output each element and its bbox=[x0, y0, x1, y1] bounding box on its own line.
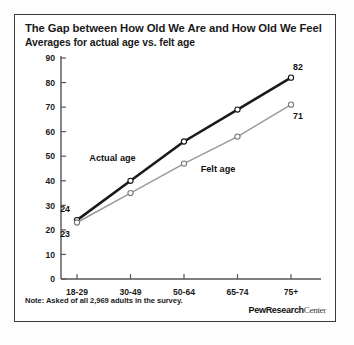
line-chart-svg: 010203040506070809018-2930-4950-6465-747… bbox=[15, 15, 337, 323]
data-point-marker bbox=[128, 178, 133, 183]
brand-light-text: Center bbox=[304, 305, 326, 315]
data-point-marker bbox=[181, 161, 186, 166]
chart-note: Note: Asked of all 2,969 adults in the s… bbox=[25, 296, 183, 305]
plot-area: 010203040506070809018-2930-4950-6465-747… bbox=[15, 15, 337, 323]
y-axis-tick-label: 80 bbox=[45, 78, 55, 88]
y-axis-tick-label: 20 bbox=[45, 225, 55, 235]
data-point-marker bbox=[235, 134, 240, 139]
y-axis-tick-label: 90 bbox=[45, 53, 55, 63]
data-point-marker bbox=[181, 139, 186, 144]
series-label-felt-age: Felt age bbox=[201, 164, 236, 174]
pew-research-center-logo: PewResearchCenter bbox=[249, 305, 326, 315]
chart-card: The Gap between How Old We Are and How O… bbox=[14, 14, 336, 322]
y-axis-tick-label: 60 bbox=[45, 127, 55, 137]
series-line bbox=[77, 78, 291, 221]
series-label-actual-age: Actual age bbox=[89, 153, 135, 163]
y-axis-tick-label: 10 bbox=[45, 250, 55, 260]
chart-page: The Gap between How Old We Are and How O… bbox=[0, 0, 354, 345]
y-axis-tick-label: 50 bbox=[45, 151, 55, 161]
data-point-marker bbox=[128, 190, 133, 195]
x-axis-tick-label: 65-74 bbox=[227, 287, 249, 297]
y-axis-tick-label: 40 bbox=[45, 176, 55, 186]
data-point-label: 82 bbox=[293, 62, 303, 72]
y-axis-tick-label: 30 bbox=[45, 201, 55, 211]
data-point-marker bbox=[235, 107, 240, 112]
data-point-label: 23 bbox=[60, 229, 70, 239]
data-point-marker bbox=[288, 75, 293, 80]
data-point-marker bbox=[288, 102, 293, 107]
data-point-label: 71 bbox=[293, 111, 303, 121]
brand-bold-text: PewResearch bbox=[249, 305, 304, 315]
data-point-label: 24 bbox=[60, 204, 70, 214]
y-axis-tick-label: 70 bbox=[45, 102, 55, 112]
x-axis-tick-label: 75+ bbox=[284, 287, 299, 297]
data-point-marker bbox=[74, 220, 79, 225]
y-axis-tick-label: 0 bbox=[50, 274, 55, 284]
